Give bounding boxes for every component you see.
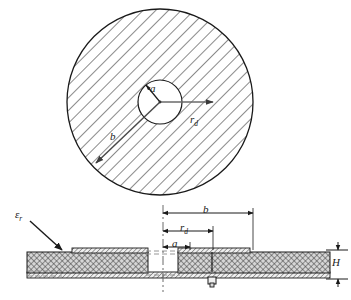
label-feed-radius-rd-top: rd — [190, 113, 198, 128]
top-view — [60, 2, 265, 207]
substrate-right — [178, 252, 330, 273]
label-outer-radius-b-top: b — [110, 130, 116, 142]
label-inner-radius-a: a — [150, 82, 156, 94]
patch-metal-right — [178, 248, 250, 253]
label-permittivity: εr — [15, 208, 22, 223]
substrate-left — [27, 252, 148, 273]
cross-section-view — [27, 205, 348, 292]
label-dimension-rd: rd — [180, 221, 188, 236]
center-dot — [159, 101, 162, 104]
patch-metal-left — [72, 248, 148, 253]
label-dimension-H: H — [332, 256, 340, 268]
permittivity-leader-arrow — [30, 221, 62, 250]
label-dimension-a: a — [172, 237, 178, 249]
label-dimension-b: b — [203, 203, 209, 215]
extension-lines — [190, 208, 253, 250]
antenna-figure — [0, 0, 351, 300]
